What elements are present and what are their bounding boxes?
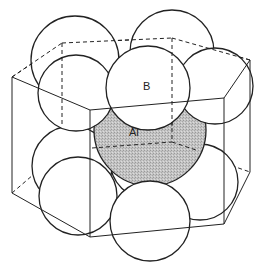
label-boron: B	[143, 80, 150, 92]
atom-bottom-front-left	[39, 157, 117, 235]
crystal-structure-diagram: B Al	[0, 0, 262, 263]
atom-bottom-front	[110, 181, 190, 261]
label-aluminium: Al	[129, 126, 139, 138]
